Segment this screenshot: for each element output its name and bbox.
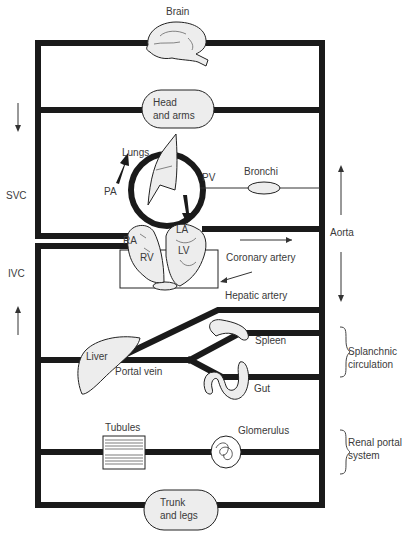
bronchi-organ xyxy=(248,182,280,194)
aorta-up-arrow-icon xyxy=(338,165,344,172)
ivc-label: IVC xyxy=(8,268,25,280)
heart-la-label: LA xyxy=(176,224,188,236)
heart-lv-label: LV xyxy=(178,245,190,257)
coronary-artery-label: Coronary artery xyxy=(226,252,295,264)
gut-organ xyxy=(204,362,248,399)
tubules-organ xyxy=(103,436,145,469)
ivc-arrow-icon xyxy=(15,306,21,313)
head-arms-organ xyxy=(142,90,214,128)
flow-arrows xyxy=(18,103,341,335)
splanchnic-label-line1: Splanchnic xyxy=(348,346,397,358)
tubules-label: Tubules xyxy=(105,422,140,434)
coronary-arrow-icon xyxy=(286,237,292,243)
head-arms-label-line2: and arms xyxy=(153,110,195,122)
heart-ra-label: RA xyxy=(123,235,137,247)
glomerulus-label: Glomerulus xyxy=(238,425,289,437)
pv-label: PV xyxy=(202,172,215,184)
lungs-label: Lungs xyxy=(122,147,149,159)
renal-label-line2: system xyxy=(348,450,380,462)
circulation-diagram: Brain Head and arms Lungs PA PV Bronchi … xyxy=(0,0,417,536)
trunk-legs-label-line2: and legs xyxy=(160,510,198,522)
splanchnic-label-line2: circulation xyxy=(348,359,393,371)
portal-vein-label: Portal vein xyxy=(115,366,162,378)
trunk-legs-label-line1: Trunk xyxy=(160,497,185,509)
brain-organ xyxy=(147,22,208,66)
aorta-label: Aorta xyxy=(330,227,354,239)
glomerulus-organ xyxy=(211,436,241,468)
hepatic-artery-label: Hepatic artery xyxy=(225,290,287,302)
renal-label-line1: Renal portal xyxy=(348,437,402,449)
brain-label: Brain xyxy=(166,6,189,18)
gut-label: Gut xyxy=(254,383,270,395)
pa-label: PA xyxy=(104,186,117,198)
lungs-organ xyxy=(148,134,177,205)
svc-arrow-icon xyxy=(15,125,21,132)
aorta-down-arrow-icon xyxy=(338,295,344,302)
bronchi-label: Bronchi xyxy=(244,166,278,178)
head-arms-label-line1: Head xyxy=(153,97,177,109)
liver-label: Liver xyxy=(86,351,108,363)
spleen-label: Spleen xyxy=(255,335,286,347)
svc-vessel xyxy=(38,43,128,236)
heart-rv-label: RV xyxy=(140,252,154,264)
svc-label: SVC xyxy=(6,190,27,202)
